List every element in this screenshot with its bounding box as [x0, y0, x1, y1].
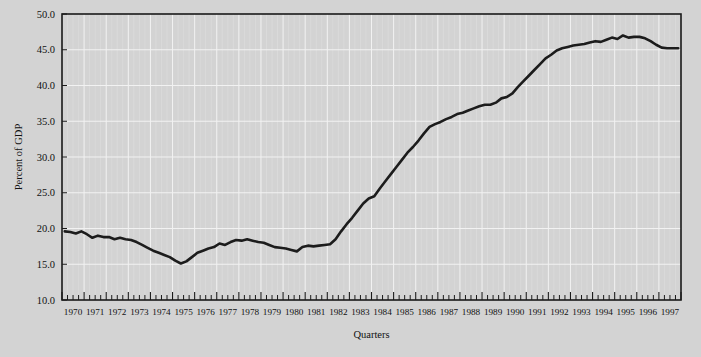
x-axis-tick-label: 1971	[86, 307, 105, 317]
x-axis-tick-label: 1997	[661, 307, 680, 317]
x-axis-tick-label: 1992	[550, 307, 569, 317]
y-axis-tick-label: 45.0	[37, 44, 55, 55]
y-axis-tick-label: 35.0	[37, 116, 55, 127]
x-axis-tick-label: 1996	[639, 307, 658, 317]
x-axis-tick-label: 1970	[64, 307, 83, 317]
x-axis-tick-label: 1982	[329, 307, 348, 317]
y-axis-title: Percent of GDP	[13, 124, 24, 191]
x-axis-tick-label: 1987	[440, 307, 459, 317]
x-axis-tick-label: 1986	[418, 307, 437, 317]
x-axis-tick-label: 1973	[130, 307, 149, 317]
chart-figure: 10.015.020.025.030.035.040.045.050.0 197…	[0, 0, 701, 357]
y-axis-tick-label: 10.0	[37, 295, 55, 306]
percent-of-gdp-line-chart: 10.015.020.025.030.035.040.045.050.0 197…	[0, 0, 701, 357]
x-axis-tick-label: 1978	[241, 307, 260, 317]
y-axis-tick-label: 30.0	[37, 152, 55, 163]
x-axis-tick-label: 1993	[572, 307, 591, 317]
y-axis-tick-label: 40.0	[37, 80, 55, 91]
x-axis-tick-label: 1984	[373, 307, 392, 317]
x-axis-tick-label: 1979	[263, 307, 282, 317]
y-axis-tick-label: 50.0	[37, 9, 55, 20]
x-axis-tick-label: 1985	[395, 307, 414, 317]
y-axis-tick-labels: 10.015.020.025.030.035.040.045.050.0	[37, 9, 55, 306]
x-axis-tick-label: 1988	[462, 307, 481, 317]
x-axis-tick-label: 1991	[528, 307, 547, 317]
x-axis-tick-label: 1975	[174, 307, 193, 317]
x-axis-tick-label: 1990	[506, 307, 525, 317]
y-axis-tick-label: 15.0	[37, 259, 55, 270]
x-axis-tick-label: 1980	[285, 307, 304, 317]
x-axis-tick-label: 1972	[108, 307, 127, 317]
x-axis-tick-label: 1977	[219, 307, 238, 317]
y-axis-tick-label: 25.0	[37, 187, 55, 198]
x-axis-tick-label: 1974	[152, 307, 171, 317]
x-axis-tick-label: 1976	[197, 307, 216, 317]
x-axis-tick-label: 1994	[594, 307, 613, 317]
y-axis-tick-label: 20.0	[37, 223, 55, 234]
x-axis-tick-label: 1981	[307, 307, 326, 317]
x-axis-tick-label: 1995	[617, 307, 636, 317]
x-axis-title: Quarters	[353, 329, 389, 340]
x-axis-tick-label: 1989	[484, 307, 503, 317]
x-axis-tick-label: 1983	[351, 307, 370, 317]
